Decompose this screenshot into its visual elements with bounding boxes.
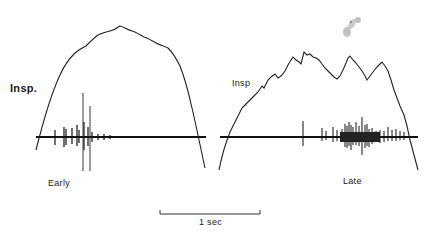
late-caption: Late	[343, 176, 362, 186]
late-insp-label: Insp	[232, 78, 250, 88]
scale-bar	[160, 210, 260, 214]
early-insp-label: Insp.	[10, 82, 37, 94]
figure-canvas	[0, 0, 431, 235]
print-smudge	[343, 17, 361, 37]
early-caption: Early	[48, 178, 70, 188]
late-insp-envelope	[219, 52, 418, 170]
scale-bar-label: 1 sec	[199, 217, 222, 227]
early-insp-envelope	[36, 26, 205, 168]
late-emg-dense-burst	[340, 132, 380, 142]
